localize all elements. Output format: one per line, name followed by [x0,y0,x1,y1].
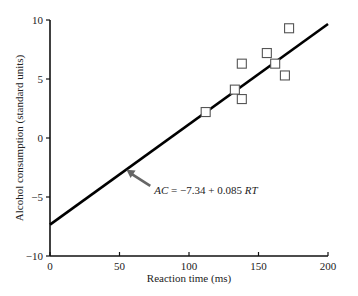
scatter-chart: −10−50510050100150200 AC = −7.34 + 0.085… [0,0,358,296]
x-tick-label: 200 [320,260,337,272]
square-marker [230,85,239,94]
square-marker [280,71,289,80]
equation-annotation: AC = −7.34 + 0.085 RT [126,170,258,196]
equation-label: AC = −7.34 + 0.085 RT [153,184,258,196]
x-tick-label: 150 [250,260,267,272]
square-marker [262,49,271,58]
y-tick-label: −10 [26,250,44,262]
equation-rt: RT [244,184,259,196]
equation-ac: AC [153,184,169,196]
y-axis-label: Alcohol consumption (standard units) [13,54,26,221]
square-marker [201,108,210,117]
x-axis-label: Reaction time (ms) [147,272,232,285]
equation-body: = −7.34 + 0.085 [168,184,244,196]
square-marker [237,95,246,104]
y-tick-label: 5 [38,73,44,85]
y-tick-label: 10 [32,14,44,26]
square-marker [271,59,280,68]
square-marker [285,24,294,33]
x-tick-label: 50 [114,260,126,272]
y-tick-label: 0 [38,132,44,144]
square-marker [237,59,246,68]
x-tick-label: 0 [47,260,53,272]
y-tick-label: −5 [31,191,43,203]
data-points [201,24,293,117]
x-tick-label: 100 [181,260,198,272]
arrow-shaft [131,174,150,186]
